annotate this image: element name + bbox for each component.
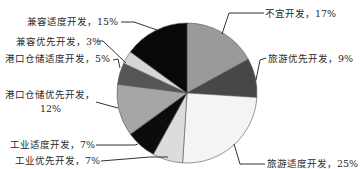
label-lvyou-youxian: 旅游优先开发，9% bbox=[268, 53, 353, 64]
label-gangkou-youxian-line2: 12% bbox=[40, 103, 61, 114]
leader-jianrong-shidu bbox=[121, 22, 157, 30]
label-gangkou-shidu: 港口仓储适度开发，5% bbox=[5, 53, 110, 64]
leader-gangkou-shidu bbox=[113, 59, 120, 68]
label-gongye-shidu: 工业适度开发，7% bbox=[10, 139, 95, 150]
pie-slice bbox=[183, 93, 257, 163]
label-buyi: 不宜开发，17% bbox=[265, 8, 336, 19]
label-gongye-youxian: 工业优先开发，7% bbox=[15, 155, 100, 166]
leader-gangkou-youxian bbox=[96, 102, 118, 108]
pie-slices bbox=[117, 23, 257, 163]
leader-gongye-shidu bbox=[96, 144, 138, 145]
label-lvyou-shidu: 旅游适度开发，25% bbox=[267, 158, 358, 169]
leader-lvyou-shidu bbox=[234, 144, 265, 164]
label-jianrong-shidu: 兼容适度开发，15% bbox=[27, 16, 118, 27]
leader-buyi bbox=[222, 13, 264, 34]
label-gangkou-youxian-line1: 港口仓储优先开发， bbox=[5, 89, 95, 100]
label-jianrong-youxian: 兼容优先开发，3% bbox=[16, 36, 101, 47]
leader-lvyou-youxian bbox=[256, 58, 266, 80]
pie-chart: 不宜开发，17% 旅游优先开发，9% 旅游适度开发，25% 工业优先开发，7% … bbox=[0, 0, 362, 169]
leader-gongye-youxian bbox=[101, 157, 168, 161]
